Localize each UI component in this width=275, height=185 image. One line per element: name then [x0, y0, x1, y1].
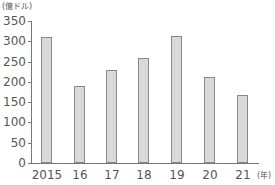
bar-16: [74, 86, 85, 163]
y-tick-label: 100: [0, 116, 26, 128]
y-tick-mark: [28, 21, 31, 22]
y-tick-label: 0: [0, 157, 26, 169]
y-tick-mark: [28, 41, 31, 42]
y-tick-mark: [28, 62, 31, 63]
x-axis-line: [31, 163, 259, 164]
y-tick-label: 200: [0, 76, 26, 88]
y-tick-label: 350: [0, 15, 26, 27]
y-axis-line: [31, 21, 32, 163]
y-tick-mark: [28, 143, 31, 144]
y-tick-mark: [28, 122, 31, 123]
bar-17: [106, 70, 117, 163]
bar-20: [204, 77, 215, 163]
y-tick-label: 50: [0, 137, 26, 149]
y-axis-unit-label: (億ドル): [2, 0, 32, 11]
y-tick-label: 250: [0, 56, 26, 68]
y-tick-label: 150: [0, 96, 26, 108]
bar-2015: [41, 37, 52, 163]
x-axis-unit-label: (年): [257, 169, 271, 180]
bar-19: [171, 36, 182, 163]
bar-18: [138, 58, 149, 163]
y-tick-label: 300: [0, 35, 26, 47]
y-tick-mark: [28, 82, 31, 83]
bar-21: [237, 95, 248, 163]
y-tick-mark: [28, 102, 31, 103]
y-tick-mark: [28, 163, 31, 164]
